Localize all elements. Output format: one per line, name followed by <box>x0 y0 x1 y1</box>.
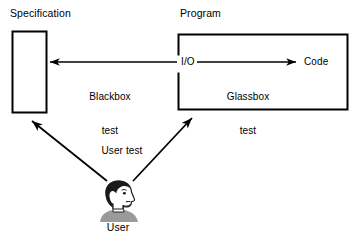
code-label: Code <box>304 56 328 67</box>
glassbox-test-label-line2: test <box>198 125 298 136</box>
specification-box-label: Specification <box>10 8 71 20</box>
program-box-label: Program <box>180 8 221 20</box>
person-head-profile-icon <box>94 180 146 222</box>
glassbox-test-label-line1: Glassbox <box>198 91 298 102</box>
io-label: I/O <box>181 56 195 67</box>
blackbox-test-label-line2: test <box>60 125 160 136</box>
diagram-vector-layer <box>0 0 361 243</box>
diagram-canvas: Specification Program I/O Code Blackbox … <box>0 0 361 243</box>
user-test-label: User test <box>72 145 172 156</box>
glassbox-test-label: Glassbox test <box>198 69 298 159</box>
specification-box <box>13 32 47 113</box>
user-label: User <box>68 222 168 234</box>
blackbox-test-label-line1: Blackbox <box>60 91 160 102</box>
